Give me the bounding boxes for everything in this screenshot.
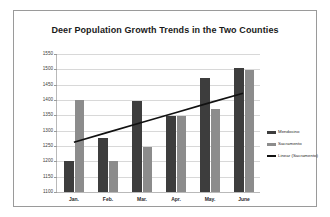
y-axis-tick-label: 1350: [43, 113, 53, 118]
y-axis-tick-label: 1100: [43, 190, 53, 195]
legend-label: Sacramento: [278, 142, 302, 146]
bar-sacramento[interactable]: [75, 100, 85, 192]
x-axis-tick-label: June: [238, 197, 250, 202]
bar-group: [200, 54, 220, 192]
bars-layer: [57, 54, 260, 192]
bar-sacramento[interactable]: [109, 161, 119, 192]
chart-frame: Deer Population Growth Trends in the Two…: [13, 10, 317, 207]
bar-mendocino[interactable]: [166, 116, 176, 192]
bar-group: [166, 54, 186, 192]
x-axis-tick-label: Mar.: [137, 197, 147, 202]
chart-legend: MendocinoSacramentoLinear (Sacramento): [267, 128, 329, 164]
y-axis-tick-label: 1250: [43, 144, 53, 149]
legend-label: Mendocino: [278, 130, 299, 134]
bar-mendocino[interactable]: [98, 138, 108, 192]
plot-area: 1100115012001250130013501400145015001550…: [56, 54, 260, 193]
bar-sacramento[interactable]: [211, 109, 221, 192]
bar-group: [98, 54, 118, 192]
y-axis-tick-label: 1550: [43, 52, 53, 57]
chart-title: Deer Population Growth Trends in the Two…: [14, 25, 316, 35]
bar-sacramento[interactable]: [245, 70, 255, 192]
y-axis-tick-label: 1500: [43, 67, 53, 72]
legend-swatch-icon: [267, 143, 276, 146]
legend-item[interactable]: Mendocino: [267, 128, 329, 136]
legend-label: Linear (Sacramento): [278, 154, 318, 158]
legend-swatch-icon: [267, 131, 276, 134]
legend-item[interactable]: Linear (Sacramento): [267, 152, 329, 160]
bar-sacramento[interactable]: [177, 116, 187, 192]
y-axis-tick-label: 1200: [43, 159, 53, 164]
bar-sacramento[interactable]: [143, 147, 153, 192]
x-axis-tick-label: Jan.: [69, 197, 79, 202]
y-axis-tick-mark: [54, 192, 57, 193]
bar-group: [132, 54, 152, 192]
x-axis-tick-label: May.: [205, 197, 216, 202]
x-axis-tick-label: Feb.: [103, 197, 113, 202]
bar-mendocino[interactable]: [64, 161, 74, 192]
y-axis-tick-label: 1400: [43, 98, 53, 103]
bar-mendocino[interactable]: [200, 78, 210, 192]
legend-swatch-icon: [267, 155, 276, 157]
legend-item[interactable]: Sacramento: [267, 140, 329, 148]
x-axis-tick-label: Apr.: [171, 197, 181, 202]
bar-group: [234, 54, 254, 192]
bar-mendocino[interactable]: [234, 68, 244, 192]
bar-mendocino[interactable]: [132, 101, 142, 192]
bar-group: [64, 54, 84, 192]
y-axis-tick-label: 1450: [43, 82, 53, 87]
y-axis-tick-label: 1150: [43, 174, 53, 179]
y-axis-tick-label: 1300: [43, 128, 53, 133]
